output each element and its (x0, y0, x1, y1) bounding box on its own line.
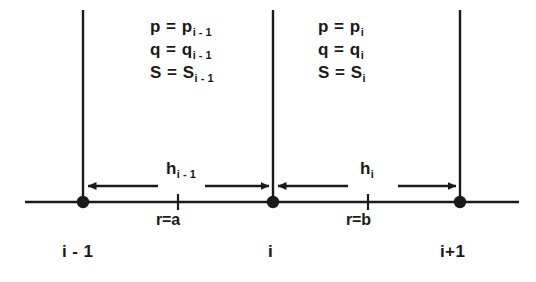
property-p-right: p = pi (318, 18, 366, 36)
interface-label-b: r=b (346, 212, 371, 228)
property-p-left-lhs: p = p (150, 17, 193, 36)
property-q-left-lhs: q = q (150, 40, 193, 59)
property-p-left-subscript: i - 1 (193, 26, 212, 38)
node-label-i-plus-1: i+1 (440, 243, 465, 260)
spacing-label-h-right-subscript: i (371, 168, 374, 180)
property-s-left-lhs: S = S (150, 63, 195, 82)
property-s-left: S = Si - 1 (150, 64, 214, 82)
property-p-right-lhs: p = p (318, 17, 361, 36)
node-label-i-minus-1: i - 1 (62, 243, 93, 260)
property-q-right-lhs: q = q (318, 40, 361, 59)
property-q-left: q = qi - 1 (150, 41, 214, 59)
grid-node-dot-i-plus-1 (454, 196, 466, 208)
property-q-right-subscript: i (361, 49, 364, 61)
property-s-left-subscript: i - 1 (195, 72, 214, 84)
grid-stencil-diagram: p = pi - 1 q = qi - 1 S = Si - 1 p = pi … (0, 0, 536, 282)
node-label-i: i (268, 243, 273, 260)
property-q-left-subscript: i - 1 (193, 49, 212, 61)
property-s-right: S = Si (318, 64, 366, 82)
grid-node-dot-i-minus-1 (77, 196, 89, 208)
interface-label-a: r=a (156, 212, 180, 228)
spacing-label-h-right: hi (360, 160, 374, 177)
property-p-right-subscript: i (361, 26, 364, 38)
spacing-label-h-right-symbol: h (360, 159, 371, 178)
diagram-canvas (0, 0, 536, 282)
property-p-left: p = pi - 1 (150, 18, 214, 36)
cell-properties-left: p = pi - 1 q = qi - 1 S = Si - 1 (150, 18, 214, 82)
grid-node-dot-i (267, 196, 279, 208)
property-s-right-subscript: i (363, 72, 366, 84)
property-q-right: q = qi (318, 41, 366, 59)
spacing-label-h-left-symbol: h (166, 159, 177, 178)
spacing-label-h-left: hi - 1 (166, 160, 196, 177)
cell-properties-right: p = pi q = qi S = Si (318, 18, 366, 82)
spacing-label-h-left-subscript: i - 1 (177, 168, 196, 180)
property-s-right-lhs: S = S (318, 63, 363, 82)
